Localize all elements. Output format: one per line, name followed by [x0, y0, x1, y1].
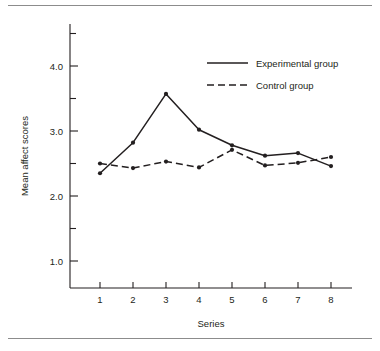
data-point [131, 141, 135, 145]
data-point [197, 165, 201, 169]
x-axis-tick-label: 7 [295, 294, 300, 305]
x-axis-tick-label: 1 [97, 294, 102, 305]
x-axis-tick-label: 8 [328, 294, 333, 305]
series-lines [100, 94, 331, 173]
data-point [296, 151, 300, 155]
y-axis-tick-labels: 1.02.03.04.0 [50, 61, 63, 267]
data-point [329, 155, 333, 159]
data-point [164, 92, 168, 96]
x-axis-tick-label: 3 [163, 294, 168, 305]
data-point [230, 143, 234, 147]
data-point [296, 161, 300, 165]
x-axis-tick-label: 2 [130, 294, 135, 305]
figure-container: 1.02.03.04.0 12345678 Mean affect scores… [0, 0, 380, 351]
legend-label-experimental-group: Experimental group [256, 58, 338, 69]
x-axis-tick-labels: 12345678 [97, 294, 333, 305]
data-point [131, 166, 135, 170]
data-point [197, 128, 201, 132]
y-axis-ticks [70, 34, 78, 262]
bottom-divider-rule [8, 338, 372, 339]
data-point [230, 148, 234, 152]
y-axis-tick-label: 3.0 [50, 126, 63, 137]
top-divider-rule [8, 5, 372, 6]
data-point [98, 161, 102, 165]
data-point [263, 154, 267, 158]
legend-label-control-group: Control group [256, 80, 314, 91]
data-point [263, 163, 267, 167]
series-markers [98, 92, 333, 175]
data-point [164, 159, 168, 163]
y-axis-tick-label: 4.0 [50, 61, 63, 72]
y-axis-title: Mean affect scores [19, 116, 30, 196]
chart-legend: Experimental group Control group [207, 58, 338, 91]
x-axis-title: Series [198, 318, 225, 329]
x-axis-ticks [100, 282, 331, 288]
y-axis-tick-label: 1.0 [50, 256, 63, 267]
line-chart: 1.02.03.04.0 12345678 Mean affect scores… [0, 0, 380, 351]
data-point [329, 164, 333, 168]
y-axis-tick-label: 2.0 [50, 191, 63, 202]
x-axis-tick-label: 4 [196, 294, 201, 305]
x-axis-tick-label: 5 [229, 294, 234, 305]
series-line-experimental-group [100, 94, 331, 173]
data-point [98, 171, 102, 175]
x-axis-tick-label: 6 [262, 294, 267, 305]
